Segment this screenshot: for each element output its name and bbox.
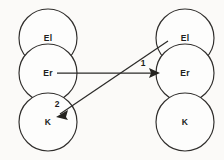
node-label: Er (180, 68, 190, 78)
edge-label: 2 (55, 99, 60, 109)
node-label: El (181, 33, 189, 43)
node-label: Er (43, 68, 53, 78)
right-column: El Er K (156, 9, 214, 151)
diagram-svg: El Er K El Er K (0, 0, 224, 160)
edge-label: 1 (141, 58, 146, 68)
left-column: El Er K (19, 9, 77, 151)
node-right-k[interactable]: K (156, 93, 214, 151)
node-label: El (44, 33, 52, 43)
node-label: K (182, 117, 189, 127)
diagram-canvas: El Er K El Er K (0, 0, 224, 160)
node-left-k[interactable]: K (19, 93, 77, 151)
node-label: K (45, 117, 52, 127)
